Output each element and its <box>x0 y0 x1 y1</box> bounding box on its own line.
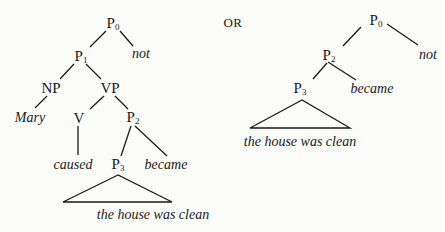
edge-np-mary <box>35 96 47 108</box>
edge-p2-p3 <box>121 126 131 156</box>
node-subscript: 1 <box>83 55 88 65</box>
node-became-right: became <box>351 82 394 96</box>
node-not-right: not <box>419 48 437 62</box>
node-p0-left: P0 <box>107 16 120 32</box>
node-np: NP <box>41 81 60 96</box>
edge-p1-vp <box>86 64 101 79</box>
node-caused: caused <box>54 158 93 172</box>
node-p0-right: P0 <box>370 13 383 29</box>
clause-left: the house was clean <box>97 208 209 222</box>
edge-r-p0-not <box>387 24 418 45</box>
node-p2-right: P2 <box>323 48 336 64</box>
node-p3-right: P3 <box>294 81 307 97</box>
triangle-clause-left <box>63 175 172 202</box>
edge-r-p2-p3 <box>313 63 327 79</box>
or-separator: OR <box>223 16 242 29</box>
node-v: V <box>74 111 85 126</box>
node-subscript: 0 <box>378 19 383 29</box>
node-vp: VP <box>100 81 119 96</box>
node-subscript: 0 <box>115 22 120 32</box>
node-not-left: not <box>132 47 150 61</box>
edge-p0-not <box>120 31 133 46</box>
node-subscript: 2 <box>331 54 336 64</box>
edge-p0-p1 <box>90 31 106 47</box>
tree-edges <box>0 0 445 232</box>
node-subscript: 2 <box>135 116 140 126</box>
node-p3-left: P3 <box>112 157 125 173</box>
triangle-clause-right <box>250 100 350 128</box>
edge-r-p2-became <box>328 62 356 80</box>
node-p1-left: P1 <box>75 49 88 65</box>
node-mary: Mary <box>15 111 45 125</box>
edge-p1-np <box>60 64 74 79</box>
node-subscript: 3 <box>120 163 125 173</box>
edge-vp-p2 <box>115 96 128 109</box>
clause-right: the house was clean <box>244 135 356 149</box>
node-p2-left: P2 <box>127 110 140 126</box>
node-subscript: 3 <box>302 87 307 97</box>
syntax-tree-diagram: P0 not P1 NP VP Mary V P2 caused P3 beca… <box>0 0 445 232</box>
edge-p2-became <box>135 126 167 156</box>
edge-r-p0-p2 <box>343 27 361 46</box>
right-tree-edges <box>250 24 418 128</box>
left-tree-edges <box>35 31 172 202</box>
edge-vp-v <box>90 96 104 109</box>
node-became-left: became <box>145 158 188 172</box>
